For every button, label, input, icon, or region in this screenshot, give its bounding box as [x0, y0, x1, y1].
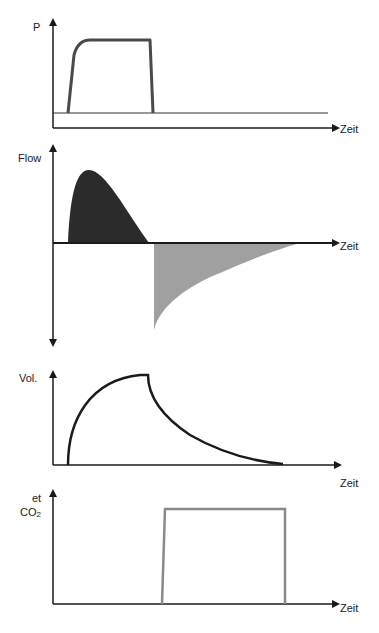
flow-x-label: Zeit [340, 240, 358, 252]
volume-curve [68, 375, 283, 465]
flow-panel: Flow Zeit [18, 146, 358, 345]
inspiratory-flow-area [68, 170, 149, 243]
etco2-co: CO [20, 506, 37, 518]
etco2-x-label: Zeit [340, 602, 358, 614]
etco2-panel: et CO2 Zeit [20, 491, 358, 614]
volume-x-label: Zeit [340, 477, 358, 489]
waveform-figure: P Zeit Flow Zeit Vol. Zeit et CO2 Zeit [0, 0, 379, 633]
pressure-x-label: Zeit [340, 123, 358, 135]
etco2-subscript: 2 [37, 510, 42, 519]
pressure-y-label: P [33, 21, 40, 33]
volume-panel: Vol. Zeit [19, 372, 358, 489]
pressure-curve [68, 40, 153, 113]
volume-y-label: Vol. [19, 372, 37, 384]
expiratory-flow-area [154, 243, 300, 330]
flow-y-label: Flow [18, 152, 41, 164]
pressure-panel: P Zeit [33, 20, 358, 135]
etco2-curve [162, 509, 285, 604]
etco2-y-label-line1: et [32, 492, 41, 504]
etco2-y-label-line2: CO2 [20, 506, 42, 519]
